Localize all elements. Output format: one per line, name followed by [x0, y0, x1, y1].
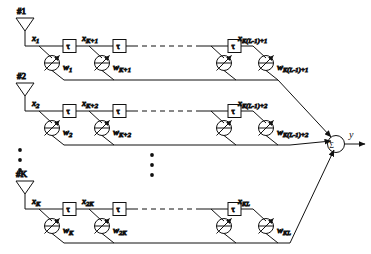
- signal-label: xK(L-1)+1: [237, 33, 267, 45]
- weight-multiplier: [45, 121, 65, 146]
- sum-symbol: Σ: [329, 141, 334, 150]
- signal-label: xK+1: [81, 33, 98, 44]
- signal-label: xKL: [237, 196, 250, 207]
- weight-label: w1: [63, 62, 72, 73]
- delay-symbol: τ: [67, 205, 71, 214]
- antenna-label-2: #2: [17, 71, 26, 81]
- signal-label: x2: [31, 98, 40, 109]
- weight-multiplier: [217, 121, 237, 146]
- weight-label: wK(L-1)+1: [277, 62, 308, 74]
- signal-label: xK+2: [81, 98, 99, 109]
- weight-multiplier: [95, 56, 115, 81]
- beamformer-diagram: #1 τ τ τ: [0, 0, 371, 254]
- delay-symbol: τ: [67, 107, 71, 116]
- weight-label: wK(L-1)+2: [277, 127, 309, 139]
- weight-multiplier: [45, 56, 65, 81]
- weight-label: wK+1: [113, 62, 131, 73]
- weight-multiplier: [259, 121, 279, 146]
- weight-multiplier: [217, 56, 237, 81]
- output-label: y: [348, 129, 354, 140]
- weight-multiplier: [95, 219, 115, 244]
- weight-multiplier: [217, 219, 237, 244]
- delay-symbol: τ: [232, 205, 236, 214]
- antenna-label-1: #1: [17, 6, 26, 16]
- weight-multiplier: [45, 219, 65, 244]
- weight-label: w2K: [113, 225, 127, 236]
- delay-symbol: τ: [232, 42, 236, 51]
- signal-label: x1: [31, 33, 39, 44]
- signal-label: xK: [31, 196, 41, 207]
- weight-label: w2: [63, 127, 73, 138]
- delay-symbol: τ: [67, 42, 71, 51]
- delay-symbol: τ: [117, 107, 121, 116]
- signal-label: xK(L-1)+2: [237, 98, 268, 110]
- weight-label: wK+2: [113, 127, 132, 138]
- weight-multiplier: [95, 121, 115, 146]
- delay-symbol: τ: [117, 42, 121, 51]
- weight-multiplier: [259, 219, 279, 244]
- signal-label: x2K: [81, 196, 94, 207]
- delay-symbol: τ: [117, 205, 121, 214]
- weight-multiplier: [259, 56, 279, 81]
- weight-label: wKL: [277, 225, 291, 236]
- weight-label: wK: [63, 225, 74, 236]
- ellipsis-middle: [150, 153, 154, 177]
- delay-symbol: τ: [232, 107, 236, 116]
